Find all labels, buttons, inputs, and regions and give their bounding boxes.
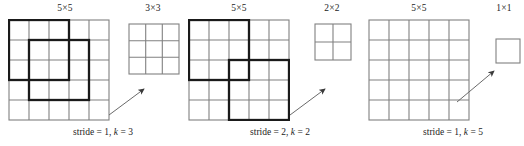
caption-1-prefix: stride = 1, — [73, 127, 114, 137]
output-grid-2 — [314, 23, 352, 61]
output-size-label-1: 3×3 — [129, 3, 177, 14]
mapping-arrow-1 — [108, 84, 150, 118]
output-size-label-2: 2×2 — [308, 3, 356, 14]
caption-1: stride = 1, k = 3 — [38, 127, 168, 138]
convolution-diagram: 5×5 — [0, 0, 524, 146]
output-size-label-3: 1×1 — [484, 3, 524, 14]
output-grid-1 — [128, 23, 180, 75]
input-size-label-1: 5×5 — [41, 3, 89, 14]
caption-2: stride = 2, k = 2 — [215, 127, 345, 138]
mapping-arrow-3 — [456, 66, 504, 106]
input-size-label-3: 5×5 — [395, 3, 443, 14]
input-grid-1 — [8, 19, 110, 121]
input-grid-2 — [188, 19, 290, 121]
caption-1-suffix: = 3 — [118, 127, 133, 137]
caption-2-suffix: = 2 — [295, 127, 310, 137]
input-size-label-2: 5×5 — [215, 3, 263, 14]
input-grid-3 — [368, 19, 470, 121]
caption-3: stride = 1, k = 5 — [388, 127, 518, 138]
mapping-arrow-2 — [289, 84, 331, 118]
output-grid-3 — [495, 38, 521, 64]
caption-2-prefix: stride = 2, — [250, 127, 291, 137]
caption-3-prefix: stride = 1, — [423, 127, 464, 137]
caption-3-suffix: = 5 — [468, 127, 483, 137]
